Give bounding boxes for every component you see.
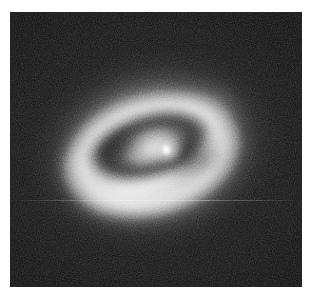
image-noise-layer <box>10 12 302 287</box>
ring-hotspot-south-layer <box>64 140 225 239</box>
nucleus-glow <box>156 138 182 164</box>
dust-lane-east-layer <box>157 138 228 181</box>
mid-halo-layer <box>29 49 275 258</box>
bright-ring-layer <box>46 71 258 239</box>
astronomical-image-panel <box>10 12 302 287</box>
scanline-artifact <box>10 200 302 201</box>
sky-background-layer <box>10 12 302 287</box>
ring-hotspot-west-layer <box>47 115 149 200</box>
page-root <box>0 0 312 300</box>
inner-bulge-glow-layer <box>122 121 189 175</box>
nucleus-core <box>159 141 175 159</box>
outer-halo-layer <box>10 17 302 282</box>
dust-lane-layer <box>80 96 220 196</box>
image-noise-bright-layer <box>10 12 302 287</box>
dust-lane-west-layer <box>76 118 155 176</box>
ring-hotspot-northeast-layer <box>145 75 252 151</box>
